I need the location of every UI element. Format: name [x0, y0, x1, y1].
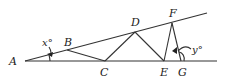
- angle-y-arrow-icon: [172, 47, 177, 54]
- label-c: C: [100, 66, 109, 79]
- geometry-diagram: A B C D E F G x° y°: [0, 0, 225, 81]
- angle-y-leader: [178, 47, 191, 51]
- label-d: D: [130, 16, 140, 29]
- segment-fg: [172, 23, 181, 61]
- segment-ef: [164, 23, 172, 61]
- label-a: A: [8, 55, 17, 68]
- label-g: G: [178, 66, 187, 79]
- label-e: E: [159, 66, 168, 79]
- angle-x-arrow-icon: [47, 52, 53, 57]
- angle-x-label: x°: [42, 37, 53, 48]
- angle-y-label: y°: [191, 44, 203, 55]
- label-b: B: [63, 36, 72, 49]
- segment-bc: [67, 50, 105, 61]
- label-f: F: [168, 7, 177, 20]
- segment-de: [135, 32, 164, 61]
- angle-x-arc: [49, 55, 50, 61]
